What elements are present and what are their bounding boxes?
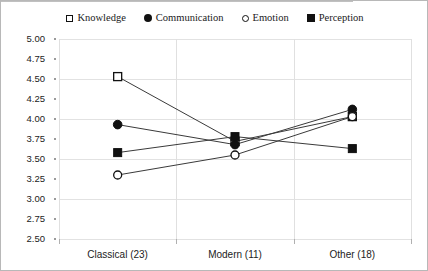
y-axis-tick-label: 4.25 [11, 94, 45, 104]
legend-label: Knowledge [77, 13, 125, 24]
chart-container: Knowledge Communication Emotion Percepti… [0, 0, 428, 271]
y-axis-tick-label: 2.50 [11, 234, 45, 244]
square-filled-marker-icon [307, 14, 315, 22]
x-axis-tick-mark [176, 239, 177, 244]
y-axis-tick-mark [54, 78, 56, 80]
y-axis-tick-label: 4.00 [11, 114, 45, 124]
y-axis-tick-mark [54, 138, 56, 140]
plot-area [59, 39, 411, 239]
y-axis-tick-mark [54, 158, 56, 160]
y-axis-tick-label: 4.75 [11, 54, 45, 64]
legend-item-communication: Communication [144, 13, 224, 24]
x-axis-tick-mark [294, 239, 295, 244]
chart-legend: Knowledge Communication Emotion Percepti… [1, 9, 428, 27]
square-open-marker-icon [66, 15, 73, 22]
y-axis-tick-label: 3.25 [11, 174, 45, 184]
y-axis-tick-mark [54, 118, 56, 120]
y-axis-tick-mark [54, 238, 56, 240]
gridline [59, 159, 411, 160]
category-gridline [411, 39, 412, 239]
category-gridline [176, 39, 177, 239]
y-axis-tick-label: 4.50 [11, 74, 45, 84]
y-axis-tick-label: 2.75 [11, 214, 45, 224]
x-axis-tick-mark [59, 239, 60, 244]
circle-filled-marker-icon [144, 14, 152, 22]
gridline [59, 199, 411, 200]
y-axis-tick-label: 3.50 [11, 154, 45, 164]
circle-open-marker-icon [242, 15, 249, 22]
y-axis-tick-mark [54, 178, 56, 180]
legend-item-emotion: Emotion [242, 13, 289, 24]
legend-label: Emotion [253, 13, 289, 24]
y-axis-tick-mark [54, 38, 56, 40]
gridline [59, 39, 411, 40]
y-axis-tick-label: 5.00 [11, 34, 45, 44]
x-axis-tick-mark [411, 239, 412, 244]
y-axis-tick-mark [54, 218, 56, 220]
legend-item-knowledge: Knowledge [66, 13, 125, 24]
y-axis-tick-mark [54, 198, 56, 200]
gridline [59, 239, 411, 240]
gridline [59, 79, 411, 80]
legend-label: Communication [156, 13, 224, 24]
y-axis-tick-mark [54, 58, 56, 60]
category-gridline [59, 39, 60, 239]
x-axis-tick-label: Modern (11) [180, 249, 290, 260]
y-axis-tick-label: 3.75 [11, 134, 45, 144]
x-axis-tick-label: Other (18) [297, 249, 407, 260]
x-axis-tick-label: Classical (23) [63, 249, 173, 260]
legend-item-perception: Perception [307, 13, 364, 24]
gridline [59, 119, 411, 120]
y-axis-tick-label: 3.00 [11, 194, 45, 204]
legend-label: Perception [319, 13, 364, 24]
category-gridline [294, 39, 295, 239]
x-axis-line [1, 1, 353, 2]
y-axis-tick-mark [54, 98, 56, 100]
